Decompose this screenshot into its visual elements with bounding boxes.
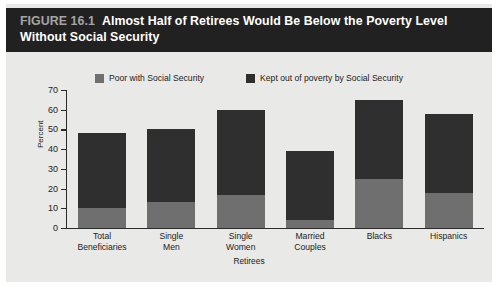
bar-segment-kept-out-of-poverty (147, 129, 195, 202)
x-axis-line (66, 228, 484, 229)
bar-segment-poor-with-social-security (425, 193, 473, 228)
bar-hispanics (425, 114, 473, 228)
y-tick-label: 0 (53, 223, 58, 233)
y-tick-label: 40 (48, 144, 58, 154)
legend-item-kept-out-of-poverty: Kept out of poverty by Social Security (246, 71, 403, 85)
legend-label: Kept out of poverty by Social Security (260, 73, 403, 83)
x-axis-label-single-women: SingleWomen (208, 231, 274, 253)
bar-single-women (217, 110, 265, 228)
figure-title-bar: FIGURE 16.1Almost Half of Retirees Would… (6, 8, 492, 52)
bar-segment-kept-out-of-poverty (286, 151, 334, 220)
bar-married-couples (286, 151, 334, 228)
x-axis-label-total-beneficiaries: TotalBeneficiaries (69, 231, 135, 253)
legend-label: Poor with Social Security (109, 73, 204, 83)
bar-total-beneficiaries (78, 133, 126, 228)
y-tick-mark (61, 129, 66, 130)
y-tick-mark (61, 149, 66, 150)
y-tick-label: 60 (48, 105, 58, 115)
bar-segment-kept-out-of-poverty (355, 100, 403, 179)
bar-segment-kept-out-of-poverty (217, 110, 265, 195)
bar-blacks (355, 100, 403, 228)
chart-frame: 70 60 50 40 30 20 (66, 90, 484, 228)
x-axis-label-married-couples: MarriedCouples (277, 231, 343, 253)
chart-plot-area: Poor with Social Security Kept out of po… (6, 56, 492, 278)
y-tick-label: 30 (48, 164, 58, 174)
x-axis-labels: TotalBeneficiariesSingleMenSingleWomenMa… (67, 231, 483, 253)
x-axis-title: Retirees (6, 256, 492, 266)
x-axis-label-single-men: SingleMen (138, 231, 204, 253)
y-tick-label: 20 (48, 184, 58, 194)
bar-segment-poor-with-social-security (286, 220, 334, 228)
y-tick-mark (61, 208, 66, 209)
x-axis-label-blacks: Blacks (346, 231, 412, 253)
figure-number: FIGURE 16.1 (20, 14, 95, 28)
bar-single-men (147, 129, 195, 228)
figure-card: FIGURE 16.1Almost Half of Retirees Would… (6, 4, 492, 282)
bar-segment-kept-out-of-poverty (425, 114, 473, 193)
page-title: FIGURE 16.1Almost Half of Retirees Would… (20, 13, 480, 45)
y-axis-title: Percent (36, 120, 45, 148)
y-tick-label: 70 (48, 85, 58, 95)
x-axis-label-hispanics: Hispanics (416, 231, 482, 253)
chart-legend: Poor with Social Security Kept out of po… (6, 71, 492, 85)
bar-segment-poor-with-social-security (355, 179, 403, 228)
legend-swatch-icon (95, 74, 104, 83)
y-tick-label: 10 (48, 203, 58, 213)
legend-item-poor-with-social-security: Poor with Social Security (95, 71, 204, 85)
y-tick-mark (61, 90, 66, 91)
bar-segment-poor-with-social-security (78, 208, 126, 228)
y-tick-label: 50 (48, 124, 58, 134)
bar-segment-poor-with-social-security (217, 195, 265, 229)
legend-swatch-icon (246, 74, 255, 83)
bar-segment-kept-out-of-poverty (78, 133, 126, 208)
bar-segment-poor-with-social-security (147, 202, 195, 228)
y-tick-mark (61, 110, 66, 111)
bar-group (67, 90, 483, 228)
y-tick-mark (61, 228, 66, 229)
y-tick-mark (61, 189, 66, 190)
y-tick-mark (61, 169, 66, 170)
